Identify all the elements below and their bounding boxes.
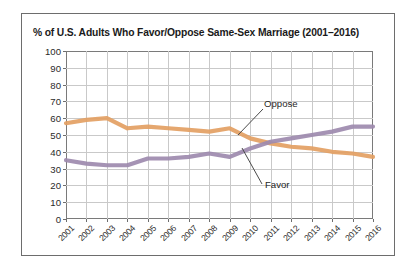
annotation-leader-lines (66, 51, 373, 219)
y-axis-tick-label: 80 (50, 79, 61, 90)
x-axis-tick-label: 2013 (302, 223, 322, 243)
x-axis-tick-mark (332, 219, 333, 222)
x-axis-tick-label: 2008 (199, 223, 219, 243)
y-axis-tick-label: 20 (50, 180, 61, 191)
y-axis-tick-label: 40 (50, 146, 61, 157)
x-axis-tick-mark (86, 219, 87, 222)
x-axis-tick-label: 2016 (363, 223, 383, 243)
y-axis-tick-label: 100 (45, 46, 61, 57)
chart-figure-frame: % of U.S. Adults Who Favor/Oppose Same-S… (21, 13, 395, 256)
y-axis-tick-label: 90 (50, 62, 61, 73)
x-axis-tick-label: 2002 (76, 223, 96, 243)
x-axis-tick-mark (189, 219, 190, 222)
x-axis-tick-mark (291, 219, 292, 222)
oppose-leader-line (238, 109, 263, 135)
x-axis-tick-label: 2011 (261, 223, 281, 243)
x-axis-tick-label: 2009 (220, 223, 240, 243)
y-axis-tick-label: 0 (56, 214, 61, 225)
x-axis-tick-mark (312, 219, 313, 222)
x-axis-tick-mark (107, 219, 108, 222)
x-axis-tick-mark (209, 219, 210, 222)
x-axis-tick-label: 2010 (240, 223, 260, 243)
x-axis-tick-label: 2012 (281, 223, 301, 243)
x-axis-tick-label: 2003 (97, 223, 117, 243)
favor-series-label: Favor (265, 179, 290, 190)
x-axis-tick-label: 2014 (322, 223, 342, 243)
y-axis-tick-label: 60 (50, 113, 61, 124)
x-axis-tick-mark (148, 219, 149, 222)
y-axis-tick-label: 50 (50, 130, 61, 141)
x-axis-tick-mark (127, 219, 128, 222)
oppose-series-label: Oppose (264, 98, 298, 109)
x-axis-tick-mark (230, 219, 231, 222)
x-axis-tick-mark (373, 219, 374, 222)
x-axis-tick-label: 2004 (117, 223, 137, 243)
y-axis-tick-label: 70 (50, 96, 61, 107)
y-axis-tick-label: 10 (50, 197, 61, 208)
x-axis-tick-label: 2005 (138, 223, 158, 243)
x-axis-tick-mark (66, 219, 67, 222)
x-axis-tick-mark (353, 219, 354, 222)
chart-title: % of U.S. Adults Who Favor/Oppose Same-S… (33, 27, 359, 38)
x-axis-tick-label: 2007 (179, 223, 199, 243)
y-axis-tick-label: 30 (50, 163, 61, 174)
plot-wrapper: 1009080706050403020100 20012002200320042… (66, 51, 373, 219)
x-axis-tick-mark (271, 219, 272, 222)
x-axis-tick-label: 2015 (343, 223, 363, 243)
x-axis-tick-mark (250, 219, 251, 222)
x-axis-tick-mark (168, 219, 169, 222)
x-axis-tick-label: 2006 (158, 223, 178, 243)
favor-leader-line (242, 148, 262, 184)
x-axis-tick-label: 2001 (56, 223, 76, 243)
